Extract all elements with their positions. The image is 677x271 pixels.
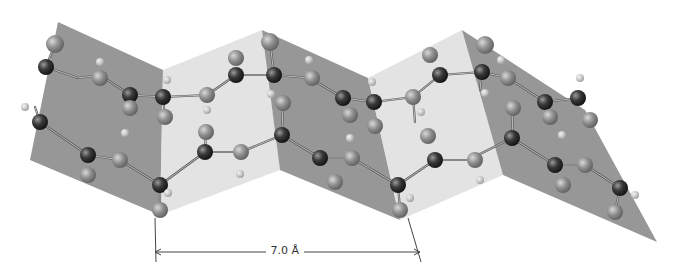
hydrogen-atom <box>406 194 414 202</box>
oxygen-atom <box>555 177 571 193</box>
oxygen-atom <box>199 87 215 103</box>
hydrogen-atom <box>631 191 639 199</box>
oxygen-atom <box>577 157 593 173</box>
carbon-atom <box>32 114 48 130</box>
hydrogen-atom <box>164 189 172 197</box>
carbon-atom <box>474 64 490 80</box>
oxygen-atom <box>261 33 279 51</box>
oxygen-atom <box>122 100 138 116</box>
oxygen-atom <box>392 202 408 218</box>
oxygen-atom <box>46 35 64 53</box>
carbon-atom <box>335 90 351 106</box>
hydrogen-atom <box>305 56 313 64</box>
hydrogen-atom <box>346 134 354 142</box>
carbon-atom <box>432 67 448 83</box>
oxygen-atom <box>342 107 358 123</box>
carbon-atom <box>504 130 520 146</box>
hydrogen-atom <box>163 76 171 84</box>
carbon-atom <box>547 157 563 173</box>
extension-line-left <box>155 218 156 262</box>
carbon-atom <box>612 180 628 196</box>
hydrogen-atom <box>576 74 584 82</box>
oxygen-atom <box>420 128 436 144</box>
hydrogen-atom <box>96 58 104 66</box>
hydrogen-atom <box>267 90 275 98</box>
hydrogen-atom <box>558 131 566 139</box>
oxygen-atom <box>275 95 291 111</box>
oxygen-atom <box>582 112 598 128</box>
hydrogen-atom <box>236 170 244 178</box>
oxygen-atom <box>198 124 214 140</box>
hydrogen-atom <box>481 89 489 97</box>
hydrogen-atom <box>476 176 484 184</box>
dimension-label: 7.0 Å <box>266 244 305 257</box>
oxygen-atom <box>157 109 173 125</box>
oxygen-atom <box>405 89 421 105</box>
oxygen-atom <box>422 47 438 63</box>
carbon-atom <box>266 67 282 83</box>
carbon-atom <box>537 94 553 110</box>
oxygen-atom <box>367 118 383 134</box>
plane-light-1 <box>160 30 280 215</box>
hydrogen-atom <box>368 78 376 86</box>
oxygen-atom <box>500 70 516 86</box>
carbon-atom <box>228 67 244 83</box>
oxygen-atom <box>92 70 108 86</box>
hydrogen-atom <box>417 108 425 116</box>
carbon-atom <box>197 144 213 160</box>
carbon-atom <box>427 152 443 168</box>
oxygen-atom <box>467 152 483 168</box>
carbon-atom <box>155 89 171 105</box>
oxygen-atom <box>327 174 343 190</box>
carbon-atom <box>366 94 382 110</box>
carbon-atom <box>80 147 96 163</box>
hydrogen-atom <box>121 129 129 137</box>
oxygen-atom <box>505 100 521 116</box>
carbon-atom <box>274 127 290 143</box>
carbon-atom <box>38 59 54 75</box>
oxygen-atom <box>607 204 623 220</box>
carbon-atom <box>570 90 586 106</box>
carbon-atom <box>390 177 406 193</box>
oxygen-atom <box>233 144 249 160</box>
oxygen-atom <box>228 50 244 66</box>
oxygen-atom <box>344 150 360 166</box>
oxygen-atom <box>476 36 494 54</box>
hydrogen-atom <box>21 103 29 111</box>
oxygen-atom <box>304 70 320 86</box>
carbon-atom <box>312 150 328 166</box>
oxygen-atom <box>112 152 128 168</box>
extension-line-right <box>408 218 421 262</box>
oxygen-atom <box>152 202 168 218</box>
oxygen-atom <box>542 109 558 125</box>
oxygen-atom <box>80 167 96 183</box>
hydrogen-atom <box>203 106 211 114</box>
hydrogen-atom <box>497 56 505 64</box>
beta-sheet-diagram <box>0 0 677 271</box>
